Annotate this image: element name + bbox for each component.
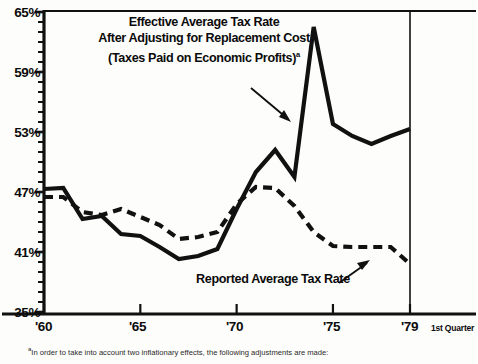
y-tick-label: 35%: [0, 305, 40, 320]
x-tick-label: '75: [323, 319, 340, 334]
x-tick-label: '65: [129, 319, 146, 334]
y-tick-label: 65%: [0, 5, 40, 20]
reported-rate-annotation-label: Reported Average Tax Rate: [196, 272, 350, 286]
title-line-2: After Adjusting for Replacement Cost: [98, 31, 310, 45]
chart-page: 65% 59% 53% 47% 41% 35% '60 '65 '70 '75 …: [0, 0, 478, 364]
x-tick-label: '70: [226, 319, 243, 334]
effective-rate-annotation-label: Effective Average Tax Rate After Adjusti…: [74, 14, 334, 66]
x-tick-label: '60: [35, 319, 52, 334]
x-axis-suffix-label: 1st Quarter: [431, 323, 474, 333]
y-tick-label: 47%: [0, 185, 40, 200]
x-tick-label: '79: [401, 319, 418, 334]
y-tick-label: 41%: [0, 245, 40, 260]
footnote-text: In order to take into account two inflat…: [31, 348, 328, 357]
y-tick-label: 53%: [0, 125, 40, 140]
title-footnote-marker: a: [296, 50, 300, 59]
y-tick-label: 59%: [0, 65, 40, 80]
title-line-3: (Taxes Paid on Economic Profits): [108, 51, 296, 65]
chart-footnote: aIn order to take into account two infla…: [28, 345, 474, 357]
annotation-arrow-effective: [251, 88, 291, 122]
title-line-1: Effective Average Tax Rate: [129, 15, 280, 29]
